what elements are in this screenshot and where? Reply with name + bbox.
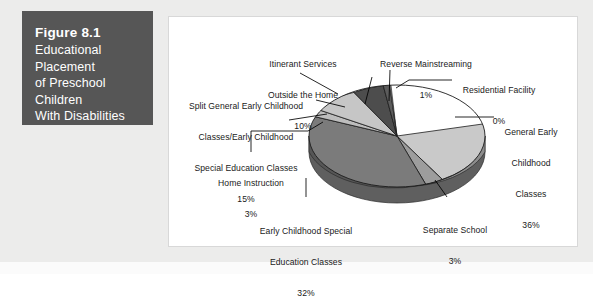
label-ecse: Early Childhood Special Education Classe… <box>244 205 368 300</box>
label-residential-line-1: Residential Facility <box>450 85 548 95</box>
label-general-line-1: General Early <box>492 127 570 137</box>
label-separate-value: 3% <box>404 256 506 266</box>
label-split-line-2: Classes/Early Childhood <box>176 132 316 142</box>
figure-title-line-3: With Disabilities <box>35 108 143 125</box>
figure-number: Figure 8.1 <box>35 24 143 41</box>
label-ecse-line-2: Education Classes <box>244 257 368 267</box>
figure-title-block: Figure 8.1 Educational Placement of Pres… <box>22 11 153 125</box>
figure-title-line-2: of Preschool Children <box>35 75 143 108</box>
label-home-line-1: Home Instruction <box>196 178 306 188</box>
figure-title-line-1: Educational Placement <box>35 42 143 75</box>
label-general-line-3: Classes <box>492 189 570 199</box>
label-split-line-1: Split General Early Childhood <box>176 101 316 111</box>
label-separate-line-1: Separate School <box>404 225 506 235</box>
label-general-line-2: Childhood <box>492 158 570 168</box>
label-ecse-line-1: Early Childhood Special <box>244 226 368 236</box>
label-itinerant-line-1: Itinerant Services <box>248 59 358 69</box>
label-ecse-value: 32% <box>244 288 368 298</box>
label-separate-school: Separate School 3% <box>404 204 506 287</box>
